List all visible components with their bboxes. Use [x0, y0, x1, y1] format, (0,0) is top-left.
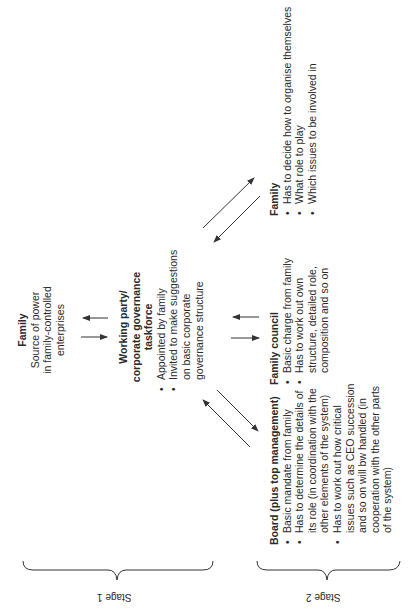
- bullet-line: cooperation with the other parts: [369, 335, 382, 533]
- bullet-line: and so on will bw handled (in: [356, 335, 369, 533]
- stage2-brace: [257, 561, 400, 580]
- bullet-item: What role to play: [293, 0, 306, 216]
- working-party-title: Working party/ corporate governance task…: [117, 262, 155, 392]
- bullet-line: Has to work out own: [293, 225, 306, 373]
- bullet-item: Has to decide how to organise themselves: [281, 0, 294, 216]
- bullet-line: on basic corporate: [180, 232, 193, 380]
- working-party-board-arrows: [203, 390, 258, 447]
- stage1-family-box: Family Source of power in family-control…: [16, 275, 66, 385]
- family-council-title: Family council: [268, 225, 281, 385]
- stage1-family-line: Source of power: [29, 275, 42, 385]
- bullet-item: Which issues to be involved in: [306, 0, 319, 216]
- bullet-line: Has to decide how to organise themselves: [281, 0, 294, 204]
- bullet-item: Basic charge from family: [281, 225, 294, 385]
- family-council-box: Family council Basic charge from family …: [268, 225, 331, 385]
- bullet-line: Has to work out how critical: [331, 335, 344, 533]
- stage1-family-line: in family-controlled: [41, 275, 54, 385]
- bullet-item: Has to work out how critical issues such…: [331, 335, 394, 545]
- bullet-item: Has to work out own structure, detailed …: [293, 225, 331, 385]
- stage1-label: Stage 1: [97, 592, 131, 603]
- bullet-line: structure, detailed role,: [306, 225, 319, 373]
- stage1-family-title: Family: [16, 275, 29, 385]
- working-party-bullets: Appointed by family Invited to make sugg…: [155, 232, 205, 392]
- stage2-family-title: Family: [268, 0, 281, 216]
- bullet-line: Invited to make suggestions: [167, 232, 180, 380]
- bullet-line: issues such as CEO succession: [344, 335, 357, 533]
- working-party-family-arrows: [203, 178, 260, 242]
- stage2-label: Stage 2: [306, 592, 340, 603]
- bullet-item: Invited to make suggestions on basic cor…: [167, 232, 205, 392]
- bullet-line: governance structure: [193, 232, 206, 380]
- family-council-bullets: Basic charge from family Has to work out…: [281, 225, 331, 385]
- bullet-item: Appointed by family: [155, 232, 168, 392]
- working-party-family-council-arrows: [231, 317, 259, 338]
- bullet-line: of the system): [381, 335, 394, 533]
- working-party-title-line: corporate governance: [130, 262, 143, 392]
- bullet-line: Basic charge from family: [281, 225, 294, 373]
- stage2-family-bullets: Has to decide how to organise themselves…: [281, 0, 319, 216]
- bullet-line: Which issues to be involved in: [306, 0, 319, 204]
- working-party-title-line: Working party/: [117, 262, 130, 392]
- bullet-line: What role to play: [293, 0, 306, 204]
- working-party-box: Working party/ corporate governance task…: [117, 232, 205, 392]
- stage1-family-line: enterprises: [54, 275, 67, 385]
- bullet-line: composition and so on: [318, 225, 331, 373]
- stage2-family-box: Family Has to decide how to organise the…: [268, 0, 318, 216]
- family-working-party-arrows: [81, 318, 108, 337]
- working-party-title-line: taskforce: [142, 262, 155, 392]
- stage1-brace: [23, 561, 213, 580]
